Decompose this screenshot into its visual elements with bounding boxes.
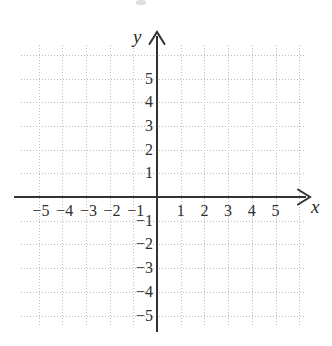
scan-artifact	[136, 0, 146, 5]
grid-line-horizontal	[21, 55, 306, 56]
grid-line-horizontal	[21, 102, 306, 103]
x-tick-label: −5	[32, 203, 49, 219]
grid-line-horizontal	[21, 79, 306, 80]
x-tick-label: 1	[177, 203, 185, 219]
x-tick-label: −2	[104, 203, 121, 219]
grid-line-horizontal	[21, 268, 306, 269]
x-axis-line	[14, 196, 306, 198]
grid-line-horizontal	[21, 126, 306, 127]
x-axis-label: x	[311, 196, 319, 218]
y-tick-label: 3	[145, 118, 153, 134]
grid-line-horizontal	[21, 173, 306, 174]
grid-line-vertical	[252, 45, 253, 327]
x-tick-label: 4	[248, 203, 256, 219]
y-tick-label: −1	[136, 213, 153, 229]
y-axis-line	[156, 36, 158, 332]
x-tick-label: 3	[224, 203, 232, 219]
y-tick-label: 4	[145, 94, 153, 110]
y-axis-arrow-icon	[140, 26, 174, 46]
grid-line-vertical	[110, 45, 111, 327]
y-tick-label: −3	[136, 260, 153, 276]
x-tick-label: 5	[272, 203, 280, 219]
grid-line-vertical	[86, 45, 87, 327]
grid-line-horizontal	[21, 150, 306, 151]
grid-line-vertical	[133, 45, 134, 327]
y-tick-label: 1	[145, 165, 153, 181]
coordinate-plane-figure: y x −5−4−3−2−11234554321−1−2−3−4−5	[0, 0, 332, 346]
grid-line-horizontal	[21, 221, 306, 222]
y-tick-label: −5	[136, 308, 153, 324]
grid-line-horizontal	[21, 316, 306, 317]
x-tick-label: −3	[80, 203, 97, 219]
grid-line-vertical	[62, 45, 63, 327]
grid-line-vertical	[276, 45, 277, 327]
grid-line-vertical	[204, 45, 205, 327]
y-axis-label: y	[133, 26, 141, 48]
y-tick-label: 5	[145, 71, 153, 87]
grid-line-vertical	[228, 45, 229, 327]
x-tick-label: 2	[200, 203, 208, 219]
grid-area	[21, 45, 306, 327]
grid-line-vertical	[39, 45, 40, 327]
y-tick-label: 2	[145, 142, 153, 158]
x-tick-label: −4	[56, 203, 73, 219]
grid-line-vertical	[181, 45, 182, 327]
y-tick-label: −4	[136, 284, 153, 300]
y-tick-label: −2	[136, 236, 153, 252]
grid-line-horizontal	[21, 292, 306, 293]
grid-line-horizontal	[21, 244, 306, 245]
